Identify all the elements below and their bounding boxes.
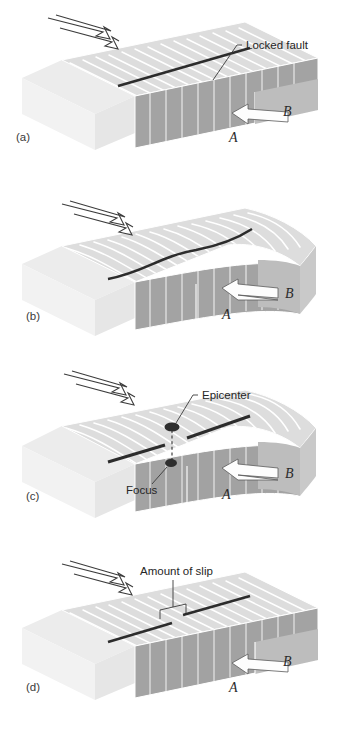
focus-label: Focus — [126, 484, 158, 496]
block-letter-a: A — [228, 130, 238, 145]
panel-label-b: (b) — [26, 310, 40, 322]
block-letter-a: A — [221, 487, 231, 502]
panel-b: A B (b) — [0, 184, 337, 368]
panel-label-c: (c) — [26, 490, 40, 502]
block-letter-a: A — [228, 680, 238, 695]
panel-a: A B Locked fault (a) — [0, 0, 337, 184]
panel-d: A B Amount of slip (d) — [0, 552, 337, 736]
epicenter-marker — [165, 422, 180, 431]
stress-arrow-d — [62, 561, 133, 595]
panel-label-a: (a) — [16, 131, 30, 143]
block-letter-b: B — [283, 104, 292, 119]
epicenter-label: Epicenter — [202, 389, 251, 401]
locked-fault-label: Locked fault — [246, 39, 309, 51]
stress-arrow-a — [48, 15, 119, 49]
focus-marker — [165, 459, 177, 467]
block-letter-b: B — [285, 466, 294, 481]
elastic-rebound-figure: A B Locked fault (a) — [0, 0, 337, 736]
block-letter-b: B — [283, 654, 292, 669]
block-letter-b: B — [285, 286, 294, 301]
panel-c: Epicenter Focus A B (c) — [0, 368, 337, 552]
amount-of-slip-label: Amount of slip — [140, 565, 213, 577]
block-letter-a: A — [221, 307, 231, 322]
stress-arrow-b — [62, 201, 133, 235]
panel-label-d: (d) — [26, 681, 40, 693]
stress-arrow-c — [64, 371, 135, 405]
